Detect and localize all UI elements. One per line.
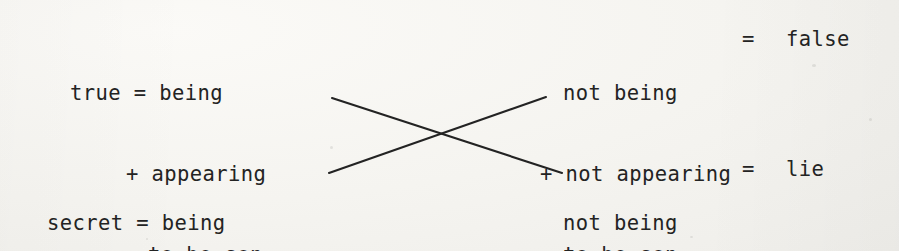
- scan-speckle: [330, 146, 333, 149]
- top-right-result-label: false: [786, 26, 850, 53]
- quadrant-bottom-right: not being + appearing to be son: [563, 156, 680, 251]
- connector-line-ascending: [329, 97, 546, 173]
- connector-line-descending: [332, 98, 562, 173]
- quadrant-bottom-left: secret = being + not appearing to be son: [47, 156, 317, 251]
- scanned-page: true = being + appearing to be son secre…: [0, 0, 899, 251]
- top-right-line-1: not being: [563, 80, 731, 107]
- scan-speckle: [812, 64, 816, 67]
- bottom-right-result-label: lie: [786, 156, 824, 183]
- bottom-right-line-1: not being: [563, 210, 680, 237]
- scan-speckle: [869, 118, 872, 121]
- bottom-left-line-1: secret = being: [47, 210, 317, 237]
- bottom-right-operator: =: [742, 156, 755, 183]
- top-left-line-1: true = being: [70, 80, 266, 107]
- top-right-operator: =: [742, 26, 755, 53]
